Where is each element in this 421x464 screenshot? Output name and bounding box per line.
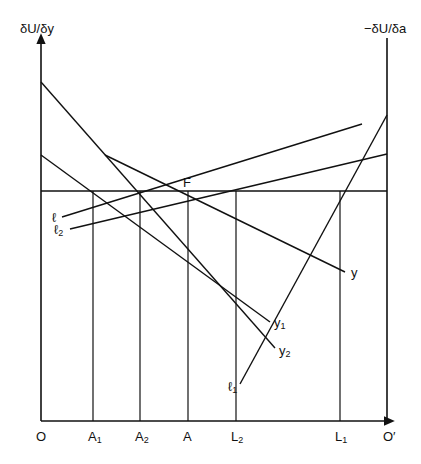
curve-label-l1: ℓ1 — [228, 380, 237, 395]
x-tick-label-l1: L1 — [335, 430, 347, 445]
curve-label-l2: ℓ2 — [54, 223, 63, 238]
curve-label-y: y — [351, 266, 358, 279]
origin-left-label: O — [36, 430, 46, 443]
x-tick-label-a1: A1 — [88, 430, 102, 445]
x-tick-label-l2: L2 — [231, 430, 243, 445]
x-tick-label-a2: A2 — [135, 430, 149, 445]
curve-label-y2: y2 — [279, 344, 291, 359]
point-f-label: F — [183, 176, 191, 189]
right-axis-label: −δU/δa — [364, 22, 406, 35]
left-axis-label: δU/δy — [20, 22, 54, 35]
x-tick-label-a: A — [183, 430, 192, 443]
curve-label-y1: y1 — [274, 316, 286, 331]
curve-y2 — [41, 82, 275, 348]
origin-right-label: O′ — [383, 430, 396, 443]
